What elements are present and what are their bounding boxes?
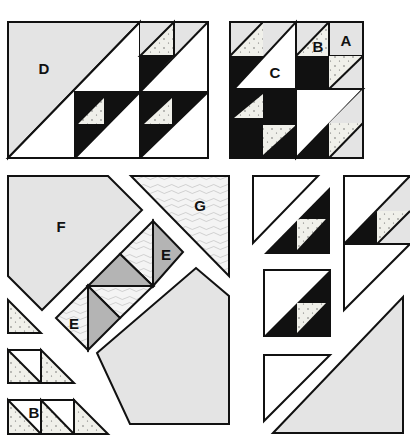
label-G: G: [194, 197, 206, 214]
label-D: D: [39, 60, 50, 77]
label-B-bottom: B: [29, 404, 40, 421]
label-E-lower: E: [69, 315, 79, 332]
label-A: A: [341, 32, 352, 49]
label-E-upper: E: [161, 246, 171, 263]
block-right: C B A: [230, 22, 363, 158]
block-left: D: [8, 22, 208, 158]
label-B-top: B: [313, 38, 324, 55]
label-C: C: [270, 64, 281, 81]
right-column-units: [253, 176, 410, 433]
quilt-diagram: D C B A F: [0, 0, 410, 443]
label-F: F: [56, 218, 65, 235]
